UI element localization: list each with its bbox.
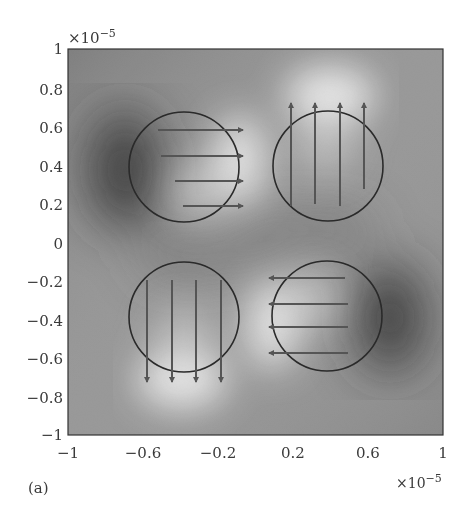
y-tick-label: −0.6	[27, 350, 63, 368]
x-tick-label: 0.2	[281, 444, 305, 462]
y-tick-label: −0.2	[27, 273, 63, 291]
heatmap-background	[68, 49, 443, 435]
y-tick-label: 0.6	[39, 119, 63, 137]
y-tick-label: −1	[41, 426, 63, 444]
x-axis-multiplier: ×10−5	[396, 472, 442, 491]
svg-text:×10−5: ×10−5	[396, 472, 442, 491]
field-plot-figure: ×10−5 1 0.8 0.6 0.4 0.2 0 −0.2 −0.4 −0.6…	[0, 0, 475, 515]
x-tick-label: −1	[57, 444, 79, 462]
y-tick-label: 0.2	[39, 196, 63, 214]
y-tick-label: 0.4	[39, 158, 63, 176]
y-axis-tick-labels: 1 0.8 0.6 0.4 0.2 0 −0.2 −0.4 −0.6 −0.8 …	[27, 40, 63, 444]
y-tick-label: −0.4	[27, 312, 63, 330]
x-tick-label: 1	[438, 444, 448, 462]
svg-text:×10−5: ×10−5	[68, 27, 116, 47]
y-tick-label: −0.8	[27, 389, 63, 407]
panel-label: (a)	[28, 479, 49, 497]
y-axis-multiplier: ×10−5	[68, 27, 116, 47]
x-tick-label: −0.2	[200, 444, 236, 462]
x-tick-label: −0.6	[125, 444, 161, 462]
y-tick-label: 1	[53, 40, 63, 58]
y-tick-label: 0	[53, 235, 63, 253]
x-axis-tick-labels: −1 −0.6 −0.2 0.2 0.6 1	[57, 444, 448, 462]
y-tick-label: 0.8	[39, 81, 63, 99]
x-tick-label: 0.6	[356, 444, 380, 462]
